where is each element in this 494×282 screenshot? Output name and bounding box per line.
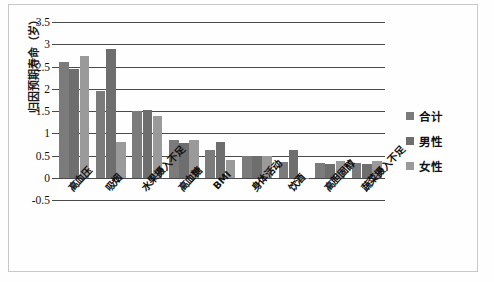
bar [69, 69, 79, 178]
y-tick-label: 3.5 [36, 16, 50, 28]
bar [315, 163, 325, 178]
legend-item: 女性 [406, 160, 442, 172]
legend-swatch-icon [406, 137, 414, 145]
legend-item: 男性 [406, 135, 442, 147]
y-tick-label: 1 [44, 127, 50, 139]
legend-label: 女性 [419, 158, 442, 174]
bar [59, 62, 69, 178]
y-tick-label: 0.5 [36, 150, 50, 162]
gridline [56, 200, 385, 201]
y-tick-label: -0.5 [32, 194, 50, 206]
y-tick-label: 0 [44, 172, 50, 184]
legend-label: 男性 [419, 133, 442, 149]
chart-legend: 合计男性女性 [406, 110, 442, 185]
bar [96, 91, 106, 178]
y-tick-label: 3 [44, 38, 50, 50]
bar [106, 49, 116, 178]
bar [242, 156, 252, 177]
y-tick-label: 1.5 [36, 105, 50, 117]
legend-item: 合计 [406, 110, 442, 122]
legend-swatch-icon [406, 162, 414, 170]
y-tick-mark [52, 200, 56, 201]
y-tick-label: 2.5 [36, 61, 50, 73]
legend-swatch-icon [406, 112, 414, 120]
y-tick-label: 2 [44, 83, 50, 95]
bar [205, 150, 215, 178]
bar [80, 56, 90, 178]
bar [132, 111, 142, 177]
legend-label: 合计 [419, 108, 442, 124]
attributable-life-expectancy-bar-chart: 归因预期寿命（岁） 3.532.521.510.50-0.5 高血压吸烟水果摄入… [0, 0, 494, 282]
